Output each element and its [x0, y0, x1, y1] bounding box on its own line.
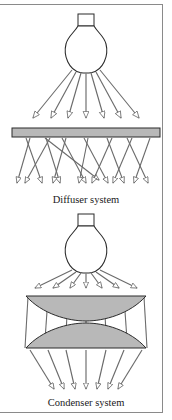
output-ray — [97, 350, 106, 389]
incident-ray — [100, 70, 139, 118]
diffuser-scattered-rays — [17, 138, 150, 183]
diffuser-light-bulb — [65, 14, 107, 73]
condenser-system-panel: Condenser system — [25, 214, 147, 408]
condenser-system-caption: Condenser system — [48, 397, 125, 408]
incident-ray — [33, 70, 72, 118]
condenser-light-bulb — [65, 214, 107, 273]
condenser-lens-lower — [26, 323, 146, 348]
condenser-output-rays — [30, 350, 142, 389]
bulb-glass-envelope — [65, 26, 107, 73]
incident-ray — [96, 272, 119, 288]
incident-ray — [51, 72, 76, 118]
scattered-ray — [84, 138, 108, 183]
diffuser-plate — [12, 128, 160, 137]
scattered-ray — [127, 138, 148, 183]
condenser-lens-upper — [26, 296, 146, 321]
figure-page: Diffuser system — [0, 0, 172, 420]
scattered-ray — [79, 138, 88, 183]
inter-lens-ray — [144, 297, 147, 348]
incident-ray — [53, 272, 76, 288]
diffuser-incident-rays — [33, 70, 139, 118]
inter-lens-ray — [25, 297, 28, 348]
incident-ray — [68, 73, 81, 118]
optical-systems-figure: Diffuser system — [0, 0, 172, 420]
scattered-ray — [53, 138, 66, 183]
scattered-ray — [134, 138, 150, 183]
output-ray — [66, 350, 75, 389]
bulb-cap-icon — [78, 214, 94, 226]
diffuser-system-caption: Diffuser system — [53, 194, 120, 205]
bulb-cap-icon — [78, 14, 94, 26]
incident-ray — [91, 73, 104, 118]
diffuser-system-panel: Diffuser system — [12, 14, 160, 205]
incident-ray — [96, 72, 121, 118]
bulb-glass-envelope — [65, 226, 107, 273]
